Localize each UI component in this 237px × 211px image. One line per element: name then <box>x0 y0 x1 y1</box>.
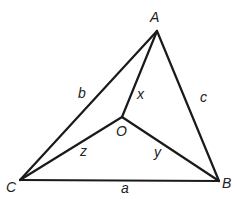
edges <box>20 31 219 181</box>
edge-x <box>122 31 157 117</box>
edge-label-z: z <box>79 143 87 159</box>
vertex-label-a: A <box>149 9 159 25</box>
edge-y <box>122 117 219 181</box>
edge-label-b: b <box>78 85 86 101</box>
edge-c <box>157 31 219 181</box>
edge-label-a: a <box>121 180 129 196</box>
edge-label-y: y <box>153 144 162 160</box>
edge-a <box>20 180 219 181</box>
edge-z <box>20 117 122 180</box>
vertex-label-o: O <box>116 123 127 139</box>
edge-label-c: c <box>200 89 207 105</box>
triangle-diagram: A B C O a b c x y z <box>0 0 237 211</box>
edge-label-x: x <box>136 86 145 102</box>
edge-b <box>20 31 157 180</box>
vertex-label-c: C <box>6 179 17 195</box>
vertex-label-b: B <box>222 175 231 191</box>
